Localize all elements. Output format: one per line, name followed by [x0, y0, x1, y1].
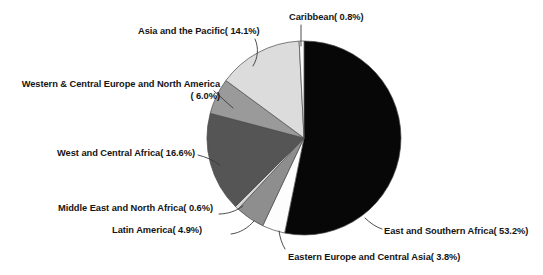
pie-label-middle-east-and-north-africa: Middle East and North Africa( 0.6%) [58, 203, 213, 215]
pie-chart-figure: Caribbean( 0.8%) Asia and the Pacific( 1… [0, 0, 543, 275]
pie-label-latin-america: Latin America( 4.9%) [112, 225, 202, 237]
pie-label-wc-europe-line1: Western & Central Europe and North Ameri… [22, 79, 220, 89]
leader-line-east-southern-africa [365, 218, 382, 229]
pie-label-west-and-central-africa: West and Central Africa( 16.6%) [57, 148, 195, 160]
pie-label-caribbean: Caribbean( 0.8%) [289, 12, 364, 24]
leader-line-latin-america [231, 221, 254, 234]
leader-line-eastern-europe [279, 231, 285, 249]
pie-label-asia-and-the-pacific: Asia and the Pacific( 14.1%) [138, 26, 260, 38]
pie-label-wc-europe-line2: ( 6.0%) [190, 91, 220, 101]
pie-label-eastern-europe-and-central-asia: Eastern Europe and Central Asia( 3.8%) [288, 252, 460, 264]
pie-label-western-central-europe-and-north-america: Western & Central Europe and North Ameri… [8, 79, 220, 102]
pie-slices [207, 41, 401, 235]
pie-label-east-and-southern-africa: East and Southern Africa( 53.2%) [384, 226, 528, 238]
